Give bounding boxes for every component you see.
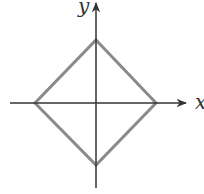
diagram-canvas bbox=[0, 0, 204, 194]
y-axis-label: y bbox=[78, 0, 89, 16]
x-axis-label: x bbox=[195, 92, 204, 112]
